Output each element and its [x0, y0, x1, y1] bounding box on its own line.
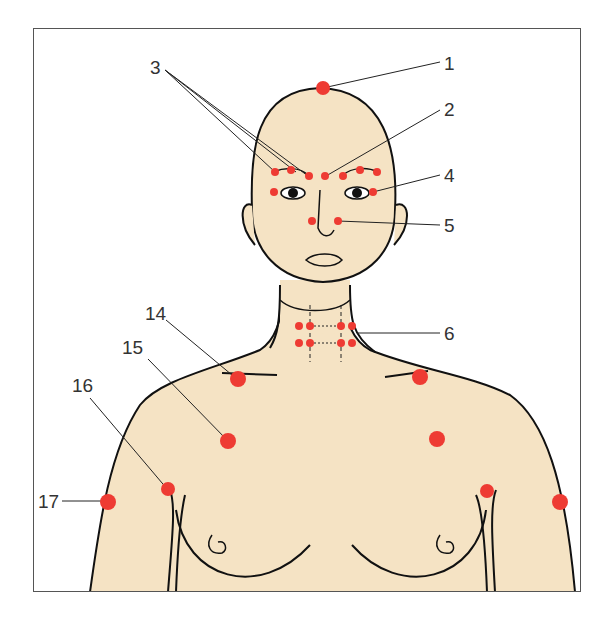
- label-3: 3: [150, 58, 161, 77]
- label-14: 14: [145, 304, 166, 323]
- torso-outline: [90, 295, 575, 592]
- label-4: 4: [444, 166, 455, 185]
- body-diagram: [0, 0, 610, 622]
- label-6: 6: [444, 324, 455, 343]
- label-5: 5: [444, 216, 455, 235]
- label-2: 2: [444, 100, 455, 119]
- label-17: 17: [38, 492, 59, 511]
- label-15: 15: [122, 338, 143, 357]
- label-1: 1: [444, 54, 455, 73]
- label-16: 16: [72, 376, 93, 395]
- head-outline: [252, 88, 396, 282]
